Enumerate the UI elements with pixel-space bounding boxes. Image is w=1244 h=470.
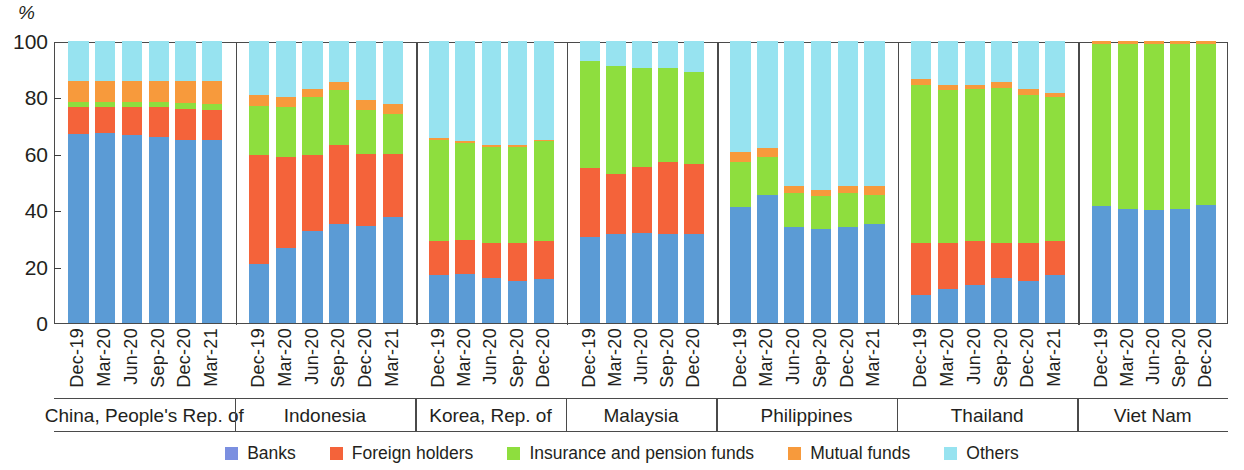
bar-segment-banks [580,237,600,323]
x-axis-tick-label: Mar-20 [757,328,775,387]
x-axis-tick-label: Mar-21 [864,328,882,387]
x-axis-tick-label: Jun-20 [1144,328,1162,385]
bar-segment-banks [1045,275,1065,323]
x-axis-tick-label: Dec-20 [684,328,702,388]
bar-segment-insurance [838,193,858,227]
stacked-bar[interactable] [95,41,115,323]
stacked-bar[interactable] [68,41,88,323]
legend-item-mutual[interactable]: Mutual funds [788,443,910,464]
stacked-bar[interactable] [122,41,142,323]
legend-item-insurance[interactable]: Insurance and pension funds [507,443,754,464]
legend-item-banks[interactable]: Banks [225,443,296,464]
bar-segment-banks [730,207,750,323]
bar-segment-others [580,41,600,61]
x-axis-tick-label: Sep-20 [508,328,526,388]
x-axis-tick-label: Jun-20 [481,328,499,385]
stacked-bar[interactable] [1144,41,1164,323]
legend-item-others[interactable]: Others [944,443,1019,464]
bar-segment-banks [784,227,804,323]
bar-segment-foreign [429,241,449,275]
stacked-bar[interactable] [580,41,600,323]
bar-segment-foreign [68,107,88,134]
stacked-bar[interactable] [838,41,858,323]
stacked-bar[interactable] [938,41,958,323]
stacked-bar[interactable] [965,41,985,323]
bar-segment-foreign [329,145,349,224]
stacked-bar[interactable] [684,41,704,323]
bar-segment-insurance [730,162,750,207]
stacked-bar[interactable] [329,41,349,323]
stacked-bar[interactable] [757,41,777,323]
x-axis-tick-label: Dec-19 [68,328,86,388]
legend-swatch-icon [944,447,957,460]
stacked-bar[interactable] [482,41,502,323]
stacked-bar[interactable] [276,41,296,323]
bar-segment-others [356,41,376,100]
legend-label: Banks [247,443,296,464]
bar-segment-banks [302,231,322,323]
bar-segment-others [965,41,985,85]
stacked-bar[interactable] [991,41,1011,323]
x-axis-tick-label: Dec-20 [1196,328,1214,388]
bar-segment-foreign [938,243,958,290]
stacked-bar[interactable] [356,41,376,323]
stacked-bar-chart: % 020406080100 Dec-19Mar-20Jun-20Sep-20D… [0,0,1244,470]
stacked-bar[interactable] [1045,41,1065,323]
legend-label: Foreign holders [352,443,474,464]
stacked-bar[interactable] [175,41,195,323]
stacked-bar[interactable] [455,41,475,323]
bar-segment-others [508,41,528,145]
legend-label: Mutual funds [810,443,910,464]
bar-segment-insurance [1092,44,1112,206]
bar-segment-others [95,41,115,80]
stacked-bar[interactable] [632,41,652,323]
bar-segment-others [329,41,349,82]
stacked-bar[interactable] [1170,41,1190,323]
bar-segment-insurance [658,68,678,162]
bar-segment-others [684,41,704,72]
stacked-bar[interactable] [784,41,804,323]
x-axis-tick-label: Jun-20 [784,328,802,385]
stacked-bar[interactable] [911,41,931,323]
bar-segment-banks [329,224,349,323]
stacked-bar[interactable] [202,41,222,323]
stacked-bar[interactable] [658,41,678,323]
stacked-bar[interactable] [149,41,169,323]
x-axis-tick-label: Mar-20 [938,328,956,387]
stacked-bar[interactable] [811,41,831,323]
stacked-bar[interactable] [864,41,884,323]
bar-segment-banks [175,140,195,323]
bar-segment-mutual [249,95,269,106]
bar-segment-others [429,41,449,138]
bar-segment-others [938,41,958,85]
stacked-bar[interactable] [534,41,554,323]
bar-segment-foreign [991,243,1011,278]
stacked-bar[interactable] [383,41,403,323]
bar-segment-others [455,41,475,141]
bar-segment-banks [838,227,858,323]
stacked-bar[interactable] [1196,41,1216,323]
stacked-bar[interactable] [730,41,750,323]
stacked-bar[interactable] [1092,41,1112,323]
stacked-bar[interactable] [302,41,322,323]
bar-segment-banks [249,264,269,323]
group-name-label: Thailand [897,399,1078,432]
stacked-bar[interactable] [1118,41,1138,323]
x-axis-tick-label: Sep-20 [149,328,167,388]
bar-segment-mutual [95,81,115,102]
bar-segment-banks [1196,205,1216,323]
stacked-bar[interactable] [429,41,449,323]
bar-segment-foreign [534,241,554,279]
stacked-bar[interactable] [249,41,269,323]
y-axis-tick-label: 0 [4,313,48,334]
group-separator [236,43,237,325]
bar-segment-others [632,41,652,68]
stacked-bar[interactable] [606,41,626,323]
x-axis-tick-label: Dec-19 [1092,328,1110,388]
bar-segment-mutual [356,100,376,110]
stacked-bar[interactable] [508,41,528,323]
legend-item-foreign[interactable]: Foreign holders [330,443,474,464]
stacked-bar[interactable] [1018,41,1038,323]
bar-segment-others [249,41,269,95]
legend-swatch-icon [330,447,343,460]
